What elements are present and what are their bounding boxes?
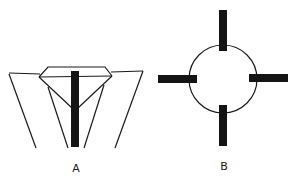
- figure-a-label: A: [72, 162, 80, 175]
- figure-b-circle: [189, 45, 257, 113]
- top-bar: [219, 10, 227, 51]
- pavilion-right: [78, 76, 112, 108]
- pavilion-left: [39, 77, 72, 108]
- bottom-bar: [219, 105, 227, 146]
- figure-b-label: B: [220, 160, 228, 173]
- central-bar: [71, 71, 79, 147]
- frame-top-left-line: [9, 73, 40, 74]
- right-bar: [249, 74, 288, 82]
- outer-left-leg: [9, 74, 36, 148]
- inner-right-leg: [84, 85, 104, 148]
- frame-top-right-line: [111, 71, 143, 72]
- left-bar: [158, 75, 197, 83]
- diagram-canvas: A B: [0, 0, 298, 179]
- outer-right-leg: [115, 71, 143, 148]
- inner-left-leg: [48, 87, 68, 148]
